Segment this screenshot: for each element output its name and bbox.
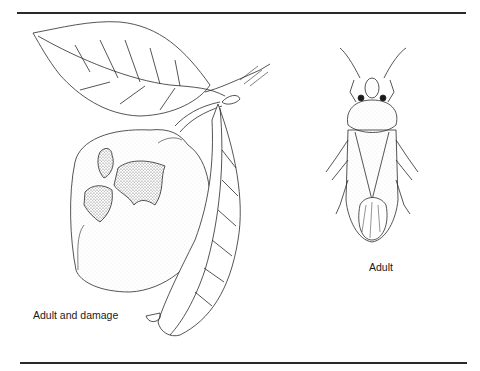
caption-adult: Adult bbox=[369, 261, 393, 273]
bug-head-icon bbox=[365, 78, 379, 98]
upper-leaf-icon bbox=[33, 22, 225, 116]
fruit-panel bbox=[33, 22, 270, 336]
bug-eye-left-icon bbox=[358, 95, 364, 101]
caption-adult-and-damage: Adult and damage bbox=[33, 309, 118, 321]
stink-bug-icon bbox=[326, 48, 418, 242]
bug-pronotum-icon bbox=[347, 100, 396, 133]
bug-eye-right-icon bbox=[380, 95, 386, 101]
bug-wing-membrane-icon bbox=[359, 198, 387, 241]
twig-icon bbox=[205, 64, 270, 104]
